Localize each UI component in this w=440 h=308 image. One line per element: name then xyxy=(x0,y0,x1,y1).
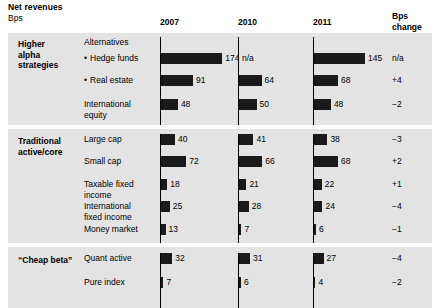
row-label-line: Money market xyxy=(84,224,138,235)
bar-value-2011: 48 xyxy=(334,99,343,110)
bar-2011 xyxy=(314,201,322,212)
row-label-text: Real estate xyxy=(84,75,133,86)
bar-2007 xyxy=(161,156,186,167)
row-label-line: Pure index xyxy=(84,277,125,288)
bar-2010 xyxy=(239,201,249,212)
bar-2007 xyxy=(161,134,175,145)
column-header-2011: 2011 xyxy=(313,17,331,27)
bar-2011 xyxy=(314,75,338,86)
row-label: Hedge funds xyxy=(84,53,138,64)
change-value: +2 xyxy=(392,156,402,167)
bar-2007 xyxy=(161,277,163,288)
bar-2010 xyxy=(239,134,253,145)
bar-value-2011: 24 xyxy=(325,201,334,212)
chart-row: Large cap404138−3 xyxy=(8,134,432,156)
row-label: Internationalfixed income xyxy=(84,201,132,222)
chart-group: HigheralphastrategiesAlternativesHedge f… xyxy=(8,33,432,125)
bar-value-2007: 91 xyxy=(196,75,205,86)
bar-value-2007: 25 xyxy=(173,201,182,212)
bar-2007 xyxy=(161,179,167,190)
bar-value-2011: 22 xyxy=(325,179,334,190)
change-value: −2 xyxy=(392,99,402,110)
bar-2007 xyxy=(161,224,166,235)
row-label-line: Alternatives xyxy=(84,37,128,48)
column-header-2010: 2010 xyxy=(238,17,257,27)
change-value: +1 xyxy=(392,179,402,190)
bar-value-2011: 6 xyxy=(319,224,324,235)
bar-value-2011: 4 xyxy=(318,277,323,288)
chart-row: Taxable fixedincome182122+1 xyxy=(8,179,432,201)
bar-2011 xyxy=(314,99,331,110)
chart-row: Small cap726668+2 xyxy=(8,156,432,179)
bar-2007 xyxy=(161,201,170,212)
bar-value-2010: 41 xyxy=(256,134,265,145)
bar-2007 xyxy=(161,53,222,64)
row-label: Money market xyxy=(84,224,138,235)
bar-value-2007: 72 xyxy=(189,156,198,167)
bar-value-2010: 66 xyxy=(265,156,274,167)
bar-2010 xyxy=(239,224,241,235)
bar-value-2010: 21 xyxy=(249,179,258,190)
change-value: −2 xyxy=(392,277,402,288)
bar-value-2007: 18 xyxy=(170,179,179,190)
bar-value-2011: 27 xyxy=(327,253,336,264)
bar-2007 xyxy=(161,75,193,86)
row-label-line: fixed income xyxy=(84,212,132,223)
chart-group: “Cheap beta”Quant active323127−4Pure ind… xyxy=(8,247,432,308)
row-label: Quant active xyxy=(84,253,132,264)
row-label-line: equity xyxy=(84,110,131,121)
bar-value-2010: 7 xyxy=(244,224,249,235)
bar-value-2007: 7 xyxy=(166,277,171,288)
chart-group: Traditionalactive/coreLarge cap404138−3S… xyxy=(8,129,432,243)
bar-2010 xyxy=(239,75,262,86)
bar-value-2011: 68 xyxy=(341,75,350,86)
bar-2011 xyxy=(314,253,324,264)
change-value: −4 xyxy=(392,201,402,212)
chart-row: Quant active323127−4 xyxy=(8,253,432,277)
bar-2010 xyxy=(239,156,262,167)
column-header-2007: 2007 xyxy=(160,17,179,27)
bar-value-2007: 13 xyxy=(169,224,178,235)
change-value: +4 xyxy=(392,75,402,86)
column-header-change-line1: Bps change xyxy=(392,11,440,32)
bar-2011 xyxy=(314,224,316,235)
row-label: Real estate xyxy=(84,75,133,86)
row-label-line: International xyxy=(84,201,132,212)
row-label-line: Large cap xyxy=(84,134,122,145)
bar-value-2007: 48 xyxy=(181,99,190,110)
row-label: Internationalequity xyxy=(84,99,131,120)
row-label-line: income xyxy=(84,190,134,201)
bar-2010 xyxy=(239,253,250,264)
bar-value-2007: 32 xyxy=(175,253,184,264)
change-value: n/a xyxy=(392,53,404,64)
bar-2011 xyxy=(314,134,327,145)
bar-value-2010: 28 xyxy=(252,201,261,212)
chart-subtitle: Bps xyxy=(8,13,23,23)
row-label-text: Hedge funds xyxy=(84,53,138,64)
chart-row: Money market1376−1 xyxy=(8,224,432,243)
row-label-line: Quant active xyxy=(84,253,132,264)
chart-row: Internationalequity485048−2 xyxy=(8,99,432,123)
row-label: Alternatives xyxy=(84,37,128,48)
bar-2010 xyxy=(239,277,241,288)
chart-title: Net revenues xyxy=(8,2,63,12)
bar-2011 xyxy=(314,53,365,64)
change-value: −1 xyxy=(392,224,402,235)
bar-2007 xyxy=(161,253,172,264)
bar-value-2011: 68 xyxy=(341,156,350,167)
bar-value-2010: 50 xyxy=(260,99,269,110)
change-value: −4 xyxy=(392,253,402,264)
change-value: −3 xyxy=(392,134,402,145)
chart-row: Internationalfixed income252824−4 xyxy=(8,201,432,224)
row-label: Small cap xyxy=(84,156,121,167)
bar-value-2010: 64 xyxy=(265,75,274,86)
bar-value-2010: 6 xyxy=(244,277,249,288)
row-subheader: Alternatives xyxy=(8,37,432,53)
chart-row: Real estate916468+4 xyxy=(8,75,432,99)
bar-value-2007: 40 xyxy=(178,134,187,145)
row-label: Pure index xyxy=(84,277,125,288)
bar-2010 xyxy=(239,99,257,110)
row-label: Large cap xyxy=(84,134,122,145)
bar-value-2007: 174 xyxy=(225,53,239,64)
